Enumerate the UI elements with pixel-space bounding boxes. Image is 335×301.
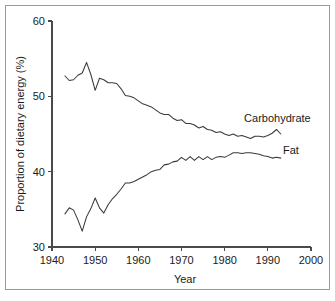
y-tick-label: 40	[33, 166, 45, 178]
x-tick-label: 1950	[83, 254, 107, 266]
x-tick-label: 1970	[169, 254, 193, 266]
series-annotation-carbohydrate: Carbohydrate	[244, 112, 311, 124]
x-tick-label: 1940	[40, 254, 64, 266]
x-axis-title: Year	[174, 273, 197, 285]
y-axis-ticks: 30405060	[33, 15, 52, 253]
series-labels: CarbohydrateFat	[244, 112, 311, 156]
series-annotation-fat: Fat	[283, 144, 299, 156]
x-tick-label: 1980	[212, 254, 236, 266]
series-line-fat	[65, 153, 281, 231]
x-tick-label: 1960	[126, 254, 150, 266]
figure-container: 30405060 1940195019601970198019902000 Ca…	[0, 0, 335, 301]
y-tick-label: 60	[33, 15, 45, 27]
x-tick-label: 2000	[299, 254, 323, 266]
dietary-energy-line-chart: 30405060 1940195019601970198019902000 Ca…	[0, 0, 335, 301]
plot-axes	[52, 21, 311, 247]
x-axis-ticks: 1940195019601970198019902000	[40, 247, 323, 266]
series-lines	[65, 62, 281, 231]
series-line-carbohydrate	[65, 62, 281, 138]
y-tick-label: 30	[33, 241, 45, 253]
y-tick-label: 50	[33, 90, 45, 102]
x-tick-label: 1990	[256, 254, 280, 266]
y-axis-title: Proportion of dietary energy (%)	[14, 56, 26, 212]
